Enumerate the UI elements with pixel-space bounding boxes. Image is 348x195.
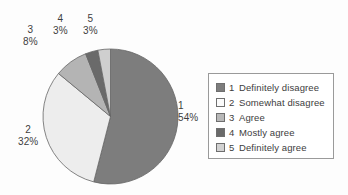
legend-swatch-2-icon (216, 98, 225, 107)
pie-chart-figure: 1 54% 2 32% 3 8% 4 3% 5 3% 1 Definitely … (0, 0, 348, 195)
legend-label-4: Mostly agree (239, 127, 295, 138)
pie-chart (42, 48, 179, 185)
pie-slice-group (43, 49, 178, 184)
legend-item-2: 2 Somewhat disagree (216, 95, 333, 110)
legend-key-2: 2 (229, 97, 239, 108)
pie-callout-4-percent: 3% (53, 25, 68, 37)
pie-callout-4: 4 3% (53, 13, 68, 36)
legend-label-5: Definitely agree (239, 142, 307, 153)
legend-item-5: 5 Definitely agree (216, 140, 333, 155)
pie-callout-2-percent: 32% (18, 136, 38, 148)
legend-item-1: 1 Definitely disagree (216, 80, 333, 95)
pie-callout-1-category: 1 (178, 100, 198, 112)
legend-key-5: 5 (229, 142, 239, 153)
pie-callout-5: 5 3% (83, 13, 98, 36)
legend-key-1: 1 (229, 82, 239, 93)
legend-swatch-3-icon (216, 113, 225, 122)
legend-label-1: Definitely disagree (239, 82, 319, 93)
legend-key-3: 3 (229, 112, 239, 123)
pie-callout-5-category: 5 (83, 13, 98, 25)
legend-label-3: Agree (239, 112, 265, 123)
pie-callout-3-category: 3 (23, 24, 38, 36)
pie-callout-4-category: 4 (53, 13, 68, 25)
pie-callout-1-percent: 54% (178, 112, 198, 124)
pie-callout-2: 2 32% (18, 124, 38, 147)
legend-swatch-4-icon (216, 128, 225, 137)
legend-key-4: 4 (229, 127, 239, 138)
legend-swatch-5-icon (216, 143, 225, 152)
pie-callout-1: 1 54% (178, 100, 198, 123)
pie-callout-3-percent: 8% (23, 36, 38, 48)
pie-callout-5-percent: 3% (83, 25, 98, 37)
legend-item-3: 3 Agree (216, 110, 333, 125)
legend-label-2: Somewhat disagree (239, 97, 325, 108)
chart-legend: 1 Definitely disagree 2 Somewhat disagre… (208, 73, 334, 159)
pie-callout-3: 3 8% (23, 24, 38, 47)
legend-swatch-1-icon (216, 83, 225, 92)
pie-svg (42, 48, 179, 185)
legend-item-4: 4 Mostly agree (216, 125, 333, 140)
pie-callout-2-category: 2 (18, 124, 38, 136)
